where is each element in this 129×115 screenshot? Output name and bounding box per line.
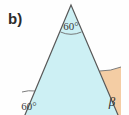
- part-label: b): [8, 10, 22, 27]
- beta-angle-label: β: [108, 94, 116, 109]
- apex-angle-label: 60°: [63, 20, 78, 32]
- triangle-diagram: b) 60° 60° β: [0, 0, 129, 115]
- bottom-left-angle-label: 60°: [21, 100, 36, 112]
- bottom-left-angle-arc: [22, 91, 35, 92]
- geometry-figure-panel: b) 60° 60° β: [0, 0, 129, 115]
